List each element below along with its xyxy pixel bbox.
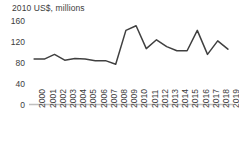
x-tick-2003: 2003: [68, 89, 78, 108]
x-tick-2000: 2000: [37, 89, 47, 108]
x-tick-2018: 2018: [221, 89, 231, 108]
y-tick-120: 120: [1, 37, 25, 47]
x-tick-2015: 2015: [190, 89, 200, 108]
x-tick-2011: 2011: [150, 89, 160, 107]
x-tick-2019: 2019: [231, 89, 239, 108]
x-tick-2013: 2013: [170, 89, 180, 108]
x-tick-2012: 2012: [160, 89, 170, 108]
x-tick-2004: 2004: [78, 89, 88, 108]
y-tick-160: 160: [1, 16, 25, 26]
x-tick-2009: 2009: [129, 89, 139, 108]
x-tick-2001: 2001: [48, 89, 58, 108]
plot-area: 16012080400 2000200120022003200420052006…: [0, 0, 239, 146]
y-tick-80: 80: [1, 58, 25, 68]
y-tick-0: 0: [1, 100, 25, 110]
x-tick-2010: 2010: [139, 89, 149, 108]
x-tick-2008: 2008: [119, 89, 129, 108]
x-tick-2002: 2002: [58, 89, 68, 108]
x-tick-2005: 2005: [88, 89, 98, 108]
x-tick-2017: 2017: [211, 89, 221, 108]
y-tick-40: 40: [1, 79, 25, 89]
x-tick-2006: 2006: [99, 89, 109, 108]
chart-container: 2010 US$, millions 16012080400 200020012…: [0, 0, 239, 146]
x-tick-2016: 2016: [201, 89, 211, 108]
series-line-2010-usd-millions: [34, 26, 228, 65]
x-tick-2014: 2014: [180, 89, 190, 108]
x-tick-2007: 2007: [109, 89, 119, 108]
line-chart-svg: [0, 0, 239, 146]
